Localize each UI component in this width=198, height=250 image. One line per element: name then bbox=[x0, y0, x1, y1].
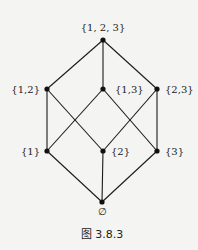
edge-top-s12 bbox=[47, 40, 103, 89]
edge-s3-empty bbox=[102, 151, 157, 202]
hasse-diagram: {1, 2, 3}{1,2}{1,3}{2,3}{1}{2}{3}∅ 图 3.8… bbox=[0, 0, 198, 250]
node-label-empty: ∅ bbox=[98, 206, 107, 217]
node-label-s3: {3} bbox=[165, 146, 184, 157]
diagram-edges bbox=[47, 40, 157, 202]
node-s23 bbox=[154, 86, 159, 91]
node-label-top: {1, 2, 3} bbox=[81, 22, 126, 33]
edge-top-s23 bbox=[103, 40, 157, 89]
node-label-s1: {1} bbox=[21, 146, 40, 157]
node-top bbox=[100, 37, 105, 42]
node-empty bbox=[99, 199, 104, 204]
node-s2 bbox=[100, 148, 105, 153]
node-label-s13: {1,3} bbox=[115, 84, 144, 95]
node-label-s2: {2} bbox=[111, 146, 130, 157]
node-s1 bbox=[44, 148, 49, 153]
edge-s1-empty bbox=[47, 151, 102, 202]
edge-s2-empty bbox=[102, 151, 103, 202]
figure-caption: 图 3.8.3 bbox=[81, 228, 124, 241]
node-s13 bbox=[100, 86, 105, 91]
node-label-s23: {2,3} bbox=[165, 84, 194, 95]
node-s12 bbox=[44, 86, 49, 91]
node-s3 bbox=[154, 148, 159, 153]
node-label-s12: {1,2} bbox=[11, 84, 40, 95]
